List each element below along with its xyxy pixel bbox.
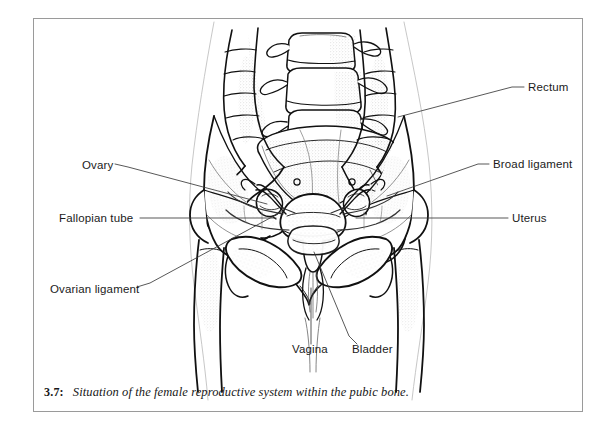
figure-caption: 3.7:Situation of the female reproductive… bbox=[44, 385, 409, 400]
label-bladder: Bladder bbox=[352, 343, 393, 355]
figure-number: 3.7: bbox=[44, 385, 64, 399]
label-fallopian-tube: Fallopian tube bbox=[59, 212, 133, 224]
label-vagina: Vagina bbox=[292, 343, 328, 355]
label-broad-ligament: Broad ligament bbox=[493, 158, 572, 170]
figure-root: Ovary Fallopian tube Ovarian ligament Re… bbox=[0, 0, 615, 437]
label-uterus: Uterus bbox=[512, 212, 547, 224]
label-rectum: Rectum bbox=[528, 81, 569, 93]
label-ovarian-ligament: Ovarian ligament bbox=[50, 283, 139, 295]
label-ovary: Ovary bbox=[82, 159, 113, 171]
figure-caption-text: Situation of the female reproductive sys… bbox=[73, 385, 409, 399]
